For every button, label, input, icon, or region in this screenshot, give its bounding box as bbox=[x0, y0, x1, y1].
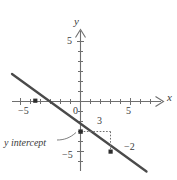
graph-figure: 5 −5 −5 0 5 y x 3 −2 y intercept bbox=[0, 0, 177, 180]
plotted-line bbox=[12, 74, 147, 172]
x-axis-tick-label-5: 5 bbox=[126, 106, 131, 116]
x-axis-tick-label-minus5: −5 bbox=[18, 106, 29, 116]
y-axis-label: y bbox=[74, 16, 79, 27]
x-intercept-point bbox=[33, 99, 37, 103]
slope-rise-label: −2 bbox=[124, 142, 135, 152]
y-intercept-leader-line bbox=[57, 133, 76, 141]
y-intercept-callout-label: y intercept bbox=[4, 138, 46, 148]
y-axis-tick-label-minus5: −5 bbox=[62, 150, 73, 160]
slope-run-label: 3 bbox=[97, 116, 102, 126]
y-axis-tick-label-5: 5 bbox=[67, 36, 72, 46]
y-intercept-callout-text: y intercept bbox=[4, 137, 46, 148]
x-axis-label: x bbox=[167, 92, 172, 103]
x-axis-tick-label-0: 0 bbox=[73, 106, 78, 116]
slope-triangle-corner-point bbox=[109, 150, 113, 154]
y-intercept-point bbox=[78, 129, 82, 133]
coordinate-plane bbox=[0, 0, 177, 180]
